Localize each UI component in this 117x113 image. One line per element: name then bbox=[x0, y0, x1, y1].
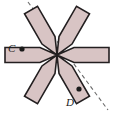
figure-canvas: C D bbox=[0, 0, 117, 113]
point-c-label: C bbox=[8, 42, 16, 54]
point-d-label: D bbox=[65, 96, 74, 108]
rotational-symmetry-figure: C D bbox=[0, 0, 117, 113]
point-d-dot bbox=[76, 86, 81, 91]
point-c-dot bbox=[19, 46, 24, 51]
